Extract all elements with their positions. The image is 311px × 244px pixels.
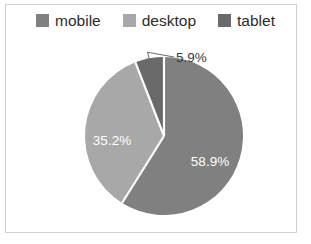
slice-label-desktop: 35.2% <box>93 133 131 148</box>
slice-label-tablet: 5.9% <box>176 50 207 65</box>
pie-svg: 58.9% 35.2% 5.9% <box>0 0 311 244</box>
slice-label-mobile: 58.9% <box>191 154 229 169</box>
pie-chart-figure: mobile desktop tablet 58.9% 35.2% 5.9% <box>0 0 311 244</box>
